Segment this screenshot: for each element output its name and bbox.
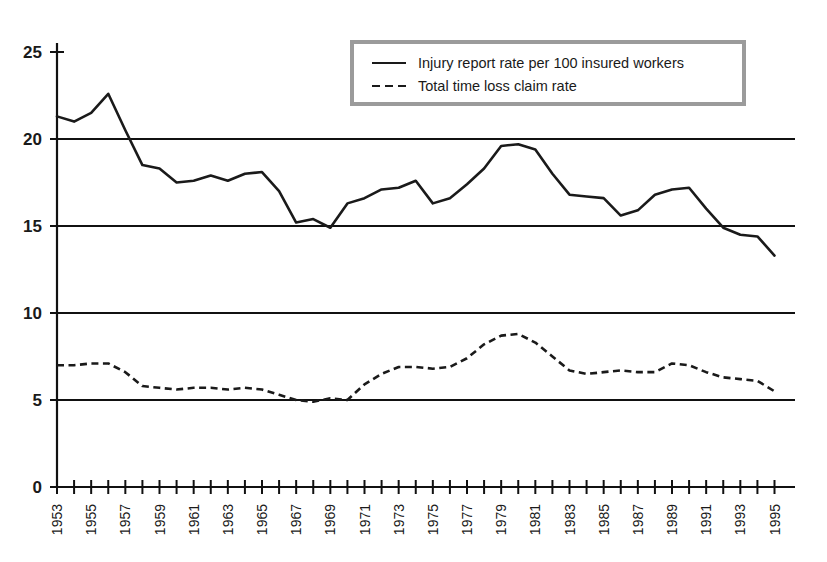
x-tick-label-1979: 1979 xyxy=(493,504,509,535)
series-line-total-time-loss-claim-rate xyxy=(57,334,775,402)
x-tick-label-1987: 1987 xyxy=(630,504,646,535)
x-tick-label-1985: 1985 xyxy=(596,504,612,535)
x-tick-label-1973: 1973 xyxy=(391,504,407,535)
x-tick-label-1953: 1953 xyxy=(49,504,65,535)
x-tick-label-1965: 1965 xyxy=(254,504,270,535)
legend-label-0: Injury report rate per 100 insured worke… xyxy=(418,55,684,71)
y-tick-label-20: 20 xyxy=(23,130,42,149)
chart-figure: 0510152025 19531955195719591961196319651… xyxy=(0,0,827,562)
line-chart: 0510152025 19531955195719591961196319651… xyxy=(0,0,827,562)
legend-box xyxy=(352,42,744,104)
x-tick-labels-group: 1953195519571959196119631965196719691971… xyxy=(49,504,783,535)
gridlines-group xyxy=(57,139,795,400)
x-tick-label-1963: 1963 xyxy=(220,504,236,535)
x-tick-label-1959: 1959 xyxy=(152,504,168,535)
x-tick-label-1961: 1961 xyxy=(186,504,202,535)
x-tick-label-1975: 1975 xyxy=(425,504,441,535)
x-tick-label-1977: 1977 xyxy=(459,504,475,535)
x-tick-label-1955: 1955 xyxy=(83,504,99,535)
x-tick-label-1991: 1991 xyxy=(698,504,714,535)
legend-label-1: Total time loss claim rate xyxy=(418,78,577,94)
x-tick-label-1989: 1989 xyxy=(664,504,680,535)
y-tick-labels-group: 0510152025 xyxy=(23,43,42,497)
x-tick-label-1967: 1967 xyxy=(288,504,304,535)
y-tick-label-10: 10 xyxy=(23,304,42,323)
y-tick-label-0: 0 xyxy=(33,478,42,497)
legend: Injury report rate per 100 insured worke… xyxy=(352,42,744,104)
x-tick-label-1995: 1995 xyxy=(767,504,783,535)
top-text-fragment xyxy=(0,0,827,6)
x-tick-label-1993: 1993 xyxy=(732,504,748,535)
y-tick-label-25: 25 xyxy=(23,43,42,62)
y-tick-label-15: 15 xyxy=(23,217,42,236)
x-tick-label-1971: 1971 xyxy=(357,504,373,535)
y-tick-label-5: 5 xyxy=(33,391,42,410)
x-tick-label-1981: 1981 xyxy=(527,504,543,535)
x-tick-label-1969: 1969 xyxy=(322,504,338,535)
x-tick-label-1957: 1957 xyxy=(117,504,133,535)
x-tick-label-1983: 1983 xyxy=(562,504,578,535)
series-line-injury-report-rate xyxy=(57,94,775,256)
